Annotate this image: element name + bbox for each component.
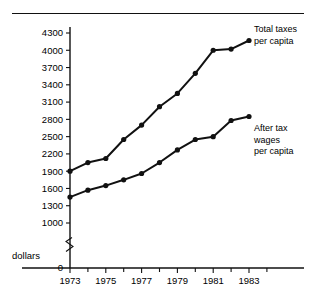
- x-tick-label: 1975: [95, 275, 116, 286]
- y-tick-label: 3400: [42, 79, 63, 90]
- series-annotation-2: per capita: [254, 146, 294, 156]
- chart-canvas: 0100013001600190022002500280031003400370…: [0, 0, 318, 293]
- y-tick-label: 4300: [42, 27, 63, 38]
- data-point: [67, 194, 72, 199]
- data-point: [121, 137, 126, 142]
- y-tick-label: 1900: [42, 166, 63, 177]
- y-tick-label: 1300: [42, 200, 63, 211]
- data-point: [85, 188, 90, 193]
- data-point: [175, 147, 180, 152]
- x-tick-label: 1981: [203, 275, 224, 286]
- series-annotation-1: Total taxes: [254, 24, 298, 34]
- data-point: [246, 38, 251, 43]
- y-axis-break-mark: [66, 238, 73, 252]
- data-point: [121, 177, 126, 182]
- data-point: [67, 169, 72, 174]
- series-line-2: [70, 116, 249, 197]
- y-tick-label: 1600: [42, 183, 63, 194]
- x-tick-label: 1979: [167, 275, 188, 286]
- y-tick-label: 3700: [42, 62, 63, 73]
- data-point: [139, 171, 144, 176]
- y-tick-label: 2200: [42, 148, 63, 159]
- data-point: [139, 123, 144, 128]
- data-point: [193, 71, 198, 76]
- chart-figure: 0100013001600190022002500280031003400370…: [0, 0, 318, 293]
- data-point: [211, 48, 216, 53]
- y-tick-label: 2500: [42, 131, 63, 142]
- series-annotation-1: per capita: [254, 36, 294, 46]
- series-annotation-2: wages: [253, 135, 281, 145]
- data-point: [229, 118, 234, 123]
- data-point: [103, 183, 108, 188]
- y-tick-label: 0: [58, 262, 63, 273]
- data-point: [175, 91, 180, 96]
- data-point: [229, 47, 234, 52]
- data-point: [103, 156, 108, 161]
- data-point: [85, 160, 90, 165]
- data-point: [157, 104, 162, 109]
- y-tick-label: 3100: [42, 96, 63, 107]
- x-tick-label: 1983: [238, 275, 259, 286]
- x-tick-label: 1977: [131, 275, 152, 286]
- x-tick-label: 1973: [59, 275, 80, 286]
- data-point: [157, 160, 162, 165]
- data-point: [193, 137, 198, 142]
- y-tick-label: 1000: [42, 217, 63, 228]
- y-tick-label: 2800: [42, 114, 63, 125]
- y-axis-caption: dollars: [12, 250, 40, 261]
- data-point: [246, 114, 251, 119]
- y-tick-label: 4000: [42, 45, 63, 56]
- series-annotation-2: After tax: [254, 123, 288, 133]
- data-point: [211, 134, 216, 139]
